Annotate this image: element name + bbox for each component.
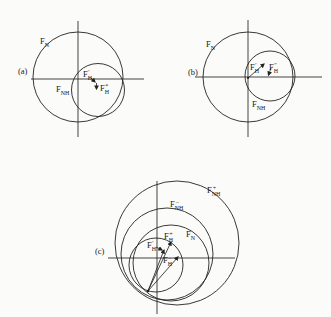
panel-b-dot <box>247 77 249 79</box>
panel-a-label-FH-prime: FH′ <box>83 69 93 81</box>
force-circles-figure: (a)FNFNHFH′FH*(b)FNFNHFH′FH″(c)FNH+FNH−F… <box>0 0 331 317</box>
panel-a-label-FN: FN <box>40 36 50 48</box>
panel-tag-c: (c) <box>95 246 105 256</box>
panel-c-label-FNH-plus: FNH+ <box>207 185 221 197</box>
panel-c-circle-FNH-minus <box>121 208 213 300</box>
figure-page: (a)FNFNHFH′FH*(b)FNFNHFH′FH″(c)FNH+FNH−F… <box>0 0 331 317</box>
panel-b: (b)FNFNHFH′FH″ <box>188 20 322 137</box>
panel-c: (c)FNH+FNH−FNFH+FH′FH− <box>95 181 239 314</box>
panel-b-circle-FNH <box>245 51 295 101</box>
panel-tag-b: (b) <box>188 67 198 77</box>
panel-a-circle-FNH <box>72 64 125 117</box>
panel-c-vector-FH-prime <box>148 250 164 291</box>
panel-c-label-FNH-minus: FNH− <box>170 199 184 211</box>
panel-c-label-FH-minus: FH− <box>163 255 173 267</box>
panel-c-label-FH-prime: FH′ <box>147 240 157 252</box>
panel-b-label-FH-prime: FH′ <box>250 62 260 74</box>
panel-b-label-FH-dprime: FH″ <box>269 62 279 74</box>
panel-a: (a)FNFNHFH′FH* <box>18 21 144 137</box>
panel-tag-a: (a) <box>18 66 28 76</box>
panel-a-label-FNH: FNH <box>56 84 70 96</box>
panel-a-label-FH-star: FH* <box>100 83 110 95</box>
panel-b-label-FNH: FNH <box>252 99 266 111</box>
panel-c-dot <box>147 290 150 293</box>
panel-b-label-FN: FN <box>206 39 216 51</box>
panel-c-label-FH-plus: FH+ <box>164 231 174 243</box>
